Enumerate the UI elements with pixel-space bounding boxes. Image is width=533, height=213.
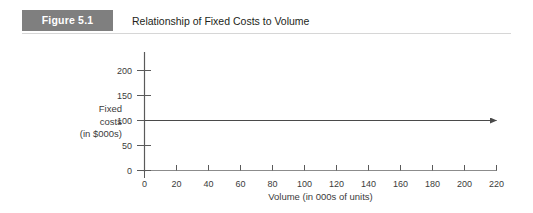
x-tick-label: 200 — [457, 179, 472, 189]
chart-svg: 050100150200 020406080100120140160180200… — [0, 0, 533, 213]
x-tick-label: 120 — [329, 179, 344, 189]
x-tick-label: 220 — [489, 179, 504, 189]
y-tick-label: 0 — [127, 166, 132, 176]
y-tick-label: 50 — [122, 141, 132, 151]
x-axis-ticks: 020406080100120140160180200220 — [142, 163, 504, 189]
x-tick-label: 60 — [235, 179, 245, 189]
figure-page: Figure 5.1 Relationship of Fixed Costs t… — [0, 0, 533, 213]
x-tick-label: 180 — [425, 179, 440, 189]
y-tick-label: 150 — [117, 91, 132, 101]
y-tick-label: 200 — [117, 66, 132, 76]
x-tick-label: 160 — [393, 179, 408, 189]
x-tick-label: 20 — [171, 179, 181, 189]
chart-plot-area: 050100150200 020406080100120140160180200… — [0, 0, 533, 213]
x-axis-title: Volume (in 000s of units) — [268, 191, 373, 202]
x-tick-label: 140 — [361, 179, 376, 189]
y-axis-title: Fixedcosts(in $000s) — [80, 103, 122, 139]
x-tick-label: 80 — [267, 179, 277, 189]
x-tick-label: 100 — [297, 179, 312, 189]
y-axis-title-line: (in $000s) — [80, 128, 122, 139]
y-axis-title-line: Fixed — [99, 103, 122, 114]
x-tick-label: 40 — [203, 179, 213, 189]
x-tick-label: 0 — [142, 179, 147, 189]
y-axis-title-line: costs — [100, 116, 122, 127]
